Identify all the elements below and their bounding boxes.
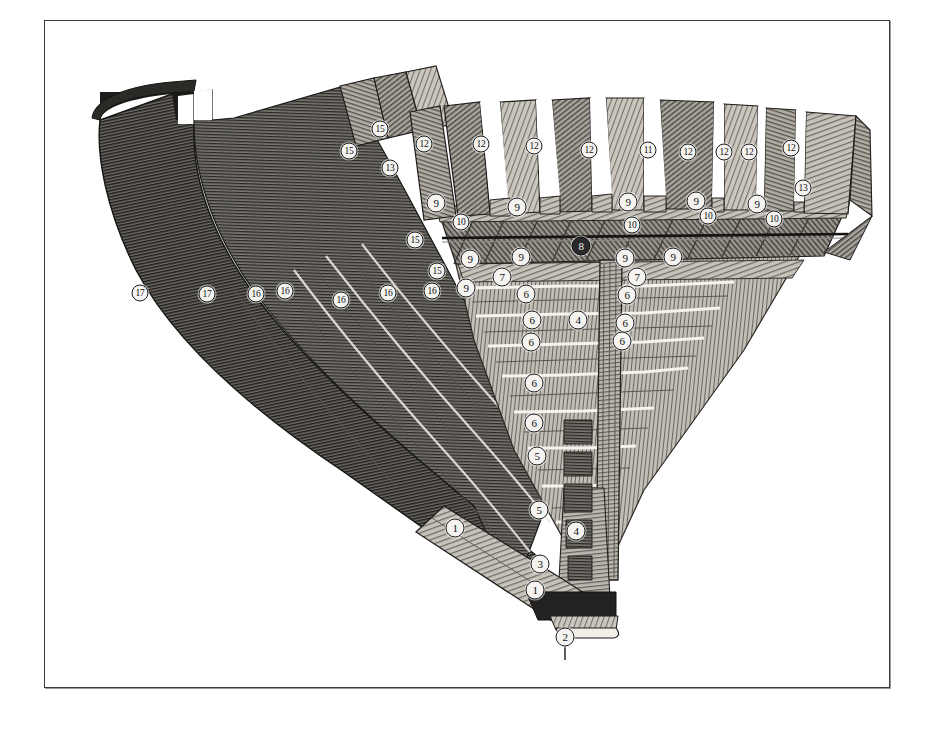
callout-futtock-head: 9: [687, 192, 706, 211]
callout-keelson-bolt: 8: [572, 237, 591, 256]
callout-outer-planking: 16: [333, 292, 350, 309]
callout-outer-plank: 15: [372, 121, 389, 138]
callout-ceiling-plank: 6: [613, 332, 632, 351]
callout-false-keel: 2: [556, 628, 575, 647]
callout-top-timber: 12: [741, 144, 758, 161]
callout-ceiling-plank: 6: [522, 333, 541, 352]
callout-limber-strake: 5: [528, 447, 547, 466]
callout-futtock-head: 9: [427, 194, 446, 213]
callout-ceiling-plank: 6: [525, 374, 544, 393]
callout-sheer-rail: 13: [795, 180, 812, 197]
callout-futtock-head: 9: [619, 193, 638, 212]
callout-top-timber: 11: [640, 142, 657, 159]
callout-ceiling-plank: 6: [616, 314, 635, 333]
callout-wale: 15: [429, 263, 446, 280]
callout-outer-planking: 16: [424, 283, 441, 300]
callout-clamp: 10: [624, 217, 641, 234]
callout-keel: 3: [531, 555, 550, 574]
callout-ceiling-plank: 6: [523, 311, 542, 330]
engraving-page: 1123445566666666778999999999910101010111…: [0, 0, 941, 736]
callout-clamp: 10: [453, 214, 470, 231]
callout-outer-planking: 16: [380, 285, 397, 302]
callout-futtock-head: 9: [508, 198, 527, 217]
callout-top-timber: 12: [416, 136, 433, 153]
callout-wale: 15: [407, 232, 424, 249]
callout-outer-planking: 16: [248, 286, 265, 303]
callout-frame-timber: 9: [664, 248, 683, 267]
callout-top-timber: 12: [526, 138, 543, 155]
callout-clamp: 10: [766, 211, 783, 228]
callout-futtock-head: 9: [748, 195, 767, 214]
callout-ceiling-plank: 6: [618, 286, 637, 305]
callout-frame-timber: 9: [461, 250, 480, 269]
callout-frame-timber: 9: [512, 248, 531, 267]
callout-ceiling-plank: 6: [517, 285, 536, 304]
callout-top-timber: 12: [581, 142, 598, 159]
callout-outer-planking: 16: [277, 283, 294, 300]
callout-sheathing: 17: [132, 285, 149, 302]
callout-keel-plank: 1: [526, 581, 545, 600]
callout-ceiling-plank: 6: [525, 414, 544, 433]
callout-top-timber: 12: [783, 140, 800, 157]
callout-thick-stuff: 7: [628, 268, 647, 287]
callout-deadwood: 4: [567, 522, 586, 541]
callout-sheathing: 17: [199, 286, 216, 303]
callout-frame-timber: 9: [457, 279, 476, 298]
callout-thick-stuff: 7: [493, 268, 512, 287]
callout-frame-timber: 9: [616, 249, 635, 268]
callout-floor-timber: 5: [530, 501, 549, 520]
callout-top-timber: 12: [716, 144, 733, 161]
callout-keelson: 4: [569, 311, 588, 330]
callout-top-timber: 12: [680, 144, 697, 161]
hull-cross-section-figure: [44, 20, 890, 688]
callout-clamp: 10: [700, 208, 717, 225]
callout-sheer-rail: 13: [382, 160, 399, 177]
callout-garboard-strake: 1: [446, 519, 465, 538]
callout-top-timber: 12: [473, 136, 490, 153]
callout-outer-plank: 15: [341, 143, 358, 160]
